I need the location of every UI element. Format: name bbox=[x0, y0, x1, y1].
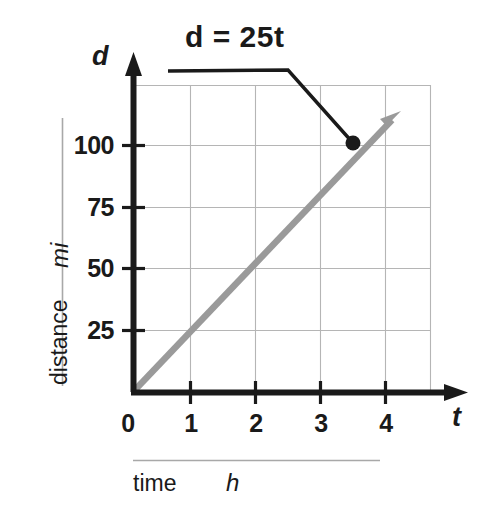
y-axis-unit-label: mi bbox=[48, 243, 72, 268]
equation-callout-leader bbox=[168, 70, 361, 151]
x-tick-label-4: 4 bbox=[366, 411, 406, 436]
callout-leader-line bbox=[168, 70, 353, 143]
trend-line-d-equals-25t bbox=[133, 111, 401, 392]
callout-point-marker bbox=[346, 136, 361, 151]
x-tick-label-2: 2 bbox=[236, 411, 276, 436]
x-tick-label-1: 1 bbox=[171, 411, 211, 436]
y-axis bbox=[122, 52, 145, 392]
y-axis-arrowhead-icon bbox=[125, 52, 142, 76]
y-tick-label-75: 75 bbox=[50, 195, 114, 220]
grid-lines-vertical bbox=[191, 85, 431, 392]
x-tick-label-0: 0 bbox=[108, 411, 148, 436]
x-axis-arrowhead-icon bbox=[444, 384, 468, 401]
equation-label: d = 25t bbox=[185, 22, 284, 52]
trend-line-segment bbox=[133, 120, 392, 392]
y-tick-label-100: 100 bbox=[50, 133, 114, 158]
x-axis-name-label: time bbox=[133, 472, 176, 495]
y-axis-name-label: distance bbox=[48, 299, 71, 385]
x-axis bbox=[131, 381, 468, 404]
x-tick-label-3: 3 bbox=[301, 411, 341, 436]
y-axis-symbol: d bbox=[92, 43, 109, 70]
x-axis-symbol: t bbox=[452, 404, 461, 431]
x-axis-unit-label: h bbox=[226, 471, 239, 495]
distance-time-graph-figure: d = 25t d t 100 75 50 25 0 1 2 3 4 dista… bbox=[0, 0, 496, 514]
